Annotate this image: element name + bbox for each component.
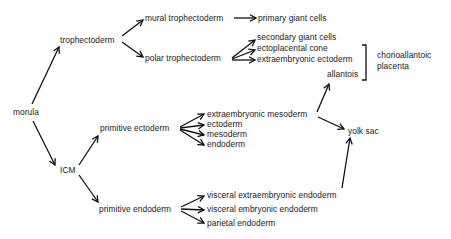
node-primary-giant-cells: primary giant cells (258, 13, 326, 23)
node-endoderm: endoderm (207, 139, 245, 149)
node-polar-trophectoderm: polar trophectoderm (145, 53, 221, 63)
arrow-polar-secondary (232, 40, 255, 58)
node-icm: ICM (60, 165, 76, 175)
arrow-vexendo-yolksac (342, 138, 350, 188)
node-ectoderm: ectoderm (207, 119, 242, 129)
node-secondary-giant-cells: secondary giant cells (257, 32, 336, 42)
arrow-primendo-parietal (181, 211, 204, 223)
arrow-morula-trophectoderm (32, 47, 59, 104)
arrow-troph-mural (122, 20, 143, 36)
node-extraembryonic-mesoderm: extraembryonic mesoderm (207, 109, 307, 119)
node-allantois: allantois (327, 69, 358, 79)
node-visceral-extraembryonic-endoderm: visceral extraembryonic endoderm (207, 190, 337, 200)
label-chorioallantoic: chorioallantoic (377, 50, 431, 60)
node-yolk-sac: yolk sac (348, 126, 379, 136)
lineage-diagram: morula trophectoderm mural trophectoderm… (0, 0, 451, 239)
node-primitive-endoderm: primitive endoderm (99, 204, 171, 214)
node-morula: morula (13, 107, 39, 117)
arrow-troph-polar (122, 42, 143, 57)
node-trophectoderm: trophectoderm (60, 35, 115, 45)
arrow-exmeso-allantois (317, 84, 329, 112)
node-extraembryonic-ectoderm: extraembryonic ectoderm (257, 54, 353, 64)
arrow-primendo-vexendo (181, 196, 204, 207)
arrow-icm-primecto (79, 136, 98, 165)
node-mesoderm: mesoderm (207, 129, 247, 139)
label-placenta: placenta (377, 61, 409, 71)
arrow-icm-primendo (79, 175, 98, 202)
node-mural-trophectoderm: mural trophectoderm (145, 13, 223, 23)
arrow-primendo-vembendo (181, 209, 204, 210)
node-ectoplacental-cone: ectoplacental cone (257, 43, 328, 53)
node-visceral-embryonic-endoderm: visceral embryonic endoderm (207, 204, 318, 214)
node-primitive-ectoderm: primitive ectoderm (100, 123, 169, 133)
arrow-exmeso-yolksac (318, 117, 344, 129)
arrow-morula-icm (33, 121, 55, 165)
bracket (362, 45, 366, 80)
node-parietal-endoderm: parietal endoderm (207, 218, 275, 228)
